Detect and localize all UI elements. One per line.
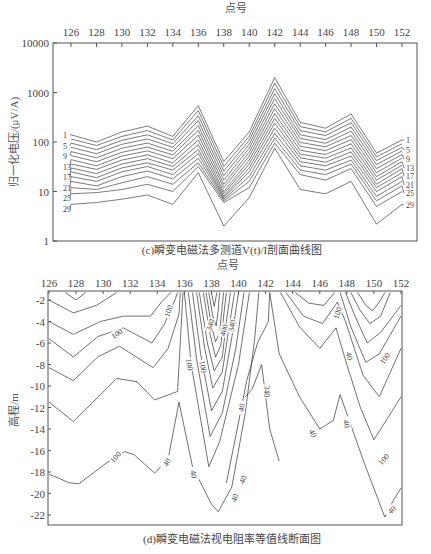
top-plot-frame [53,43,417,241]
bottom-y-tick-label: -8 [36,359,46,371]
bottom-x-tick-label: 138 [203,277,220,289]
bottom-y-tick-label: -20 [30,488,45,500]
contour-line [49,293,178,358]
resistivity-contour-chart: 点号 1261281301321341361381401421441461481… [7,259,409,546]
right-channel-leader [402,169,404,176]
top-x-tick-label: 150 [368,26,385,38]
contour-line [212,293,217,307]
left-channel-leader [70,143,71,145]
bottom-x-tick-label: 152 [393,277,410,289]
bottom-x-tick-label: 142 [257,277,274,289]
contour-line [346,293,402,344]
contour-label: 100 [376,452,391,467]
curve-channel-21 [71,128,402,198]
right-channel-leader [402,186,404,193]
bottom-y-axis-title: 高程/m [7,393,20,427]
bottom-x-tick-label: 132 [122,277,139,289]
contour-line [65,293,85,301]
contour-labels: 1001001001003404003401004010010034010040… [108,303,400,517]
left-channel-leader [70,152,71,156]
profile-curve-chart: 点号 1261281301321341361381401421441461481… [7,2,417,257]
left-channel-label: 29 [63,205,71,214]
bottom-x-tick-label: 144 [284,277,301,289]
top-x-tick-label: 152 [394,26,411,38]
bottom-y-tick-label: -18 [30,466,45,478]
contour-label: 100 [184,358,195,371]
top-x-axis-title: 点号 [225,2,247,14]
bottom-y-tick-label: -16 [30,445,45,457]
top-x-tick-label: 130 [114,26,131,38]
top-x-tick-label: 132 [139,26,156,38]
top-y-ticks: 110100100010000 [22,37,58,247]
top-x-tick-label: 126 [63,26,80,38]
left-channel-label: 13 [63,163,71,172]
figure: 点号 1261281301321341361381401421441461481… [0,0,431,554]
top-y-tick-label: 10 [38,186,50,198]
channel-labels: 15913172125291591317212529 [63,131,414,214]
curve-channel-7 [71,94,402,176]
contour-line [245,365,279,462]
contour-line [49,293,117,313]
contour-line [49,293,171,335]
bottom-x-tick-label: 150 [366,277,383,289]
contour-line [270,293,401,518]
right-channel-leader [402,177,404,185]
bottom-x-tick-label: 126 [41,277,58,289]
top-x-tick-label: 136 [190,26,207,38]
bottom-caption: (d)瞬变电磁法视电阻率等值线断面图 [143,532,321,546]
bottom-x-tick-label: 130 [95,277,112,289]
top-x-tick-label: 148 [343,26,360,38]
bottom-y-tick-label: -2 [36,294,45,306]
left-channel-label: 17 [63,173,71,182]
top-x-tick-label: 128 [88,26,105,38]
bottom-x-axis-title: 点号 [217,259,239,271]
bottom-x-tick-label: 134 [149,277,166,289]
left-channel-label: 1 [63,131,67,140]
top-y-tick-label: 10000 [22,37,50,49]
contour-line [188,293,244,437]
right-channel-leader [402,147,404,150]
bottom-x-tick-label: 148 [339,277,356,289]
bottom-y-tick-label: -22 [30,509,45,521]
bottom-x-tick-label: 136 [176,277,193,289]
top-x-ticks: 1261281301321341361381401421441461481501… [63,26,411,47]
curve-channel-25 [71,138,402,201]
top-x-tick-label: 138 [216,26,233,38]
top-y-tick-label: 1000 [27,87,50,99]
top-y-tick-label: 1 [44,235,50,247]
contour-label: 40 [237,403,247,412]
contour-label: 40 [341,419,351,428]
right-channel-label: 25 [406,189,414,198]
left-channel-label: 9 [63,152,67,161]
bottom-x-tick-label: 128 [68,277,85,289]
top-y-tick-label: 100 [33,136,50,148]
right-channel-leader [402,204,404,205]
contour-label: 340 [262,385,271,397]
contour-label: 340 [227,319,238,332]
right-channel-leader [402,154,404,159]
bottom-y-tick-label: -12 [30,402,45,414]
contour-line [351,293,390,324]
contour-line [295,293,334,306]
bottom-x-tick-label: 140 [230,277,247,289]
right-channel-label: 1 [406,136,410,145]
left-channel-label: 25 [63,194,71,203]
right-channel-leader [402,162,404,168]
contour-label: 100 [109,327,124,341]
right-channel-label: 5 [406,146,410,155]
top-x-tick-label: 144 [292,26,309,38]
top-x-tick-label: 142 [266,26,283,38]
contour-label: 40 [188,470,198,479]
right-channel-label: 17 [406,172,414,181]
curve-series-group [71,78,402,227]
bottom-y-tick-label: -14 [30,423,45,435]
top-x-tick-label: 140 [241,26,258,38]
contour-line [358,293,385,311]
left-channel-label: 5 [63,142,67,151]
top-x-tick-label: 146 [317,26,334,38]
contour-label: 100 [378,351,392,366]
top-y-axis-title: 归一化电压/(μV/A) [7,97,21,188]
bottom-y-tick-label: -6 [36,337,46,349]
left-channel-label: 21 [63,184,71,193]
curve-channel-5 [71,89,402,171]
